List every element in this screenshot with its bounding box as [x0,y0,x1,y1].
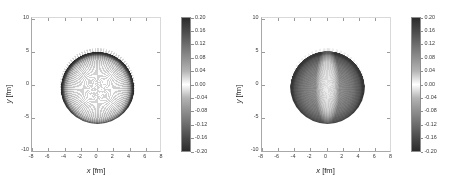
ytick-right-right-2 [387,85,390,86]
xticklabel-left-1: -6 [45,154,50,159]
ytick-right-2 [262,85,265,86]
cbar-tick-left-10 [191,152,194,153]
xtick-right-2 [294,148,295,151]
xaxis-title-left: x [fm] [31,166,161,175]
xtick-top-left-4 [97,18,98,21]
xaxis-title-symbol-left: x [87,166,91,175]
xtick-right-6 [359,148,360,151]
xaxis-unit-right: [fm] [322,166,335,175]
xticklabel-right-5: 2 [340,154,343,159]
xticklabel-right-4: 0 [324,154,327,159]
cbar-tick-left-3 [191,58,194,59]
yticklabel-right-1: -5 [254,114,259,119]
xtick-right-5 [343,148,344,151]
cbar-tick-left-0 [191,18,194,19]
yaxis-title-symbol-right: y [233,100,242,104]
xtick-top-right-6 [359,18,360,21]
xtick-top-right-7 [375,18,376,21]
cbar-label-right-9: -0.16 [425,135,437,140]
xticklabel-right-2: -4 [291,154,296,159]
cbar-label-right-0: 0.20 [425,15,436,20]
cbar-tick-left-4 [191,71,194,72]
xtick-top-right-5 [343,18,344,21]
cbar-label-left-9: -0.16 [195,135,207,140]
colorbar-right: 0.20 0.16 0.12 0.08 0.04 0.00 -0.04 -0.0… [411,17,455,152]
xtick-right-3 [310,148,311,151]
cbar-label-right-3: 0.08 [425,55,436,60]
cbar-tick-right-8 [421,125,424,126]
xticklabel-left-7: 6 [143,154,146,159]
ytick-right-1 [262,118,265,119]
xtick-top-left-3 [81,18,82,21]
heatmap-texture-right [290,48,365,124]
heatmap-rim-texture-left [60,48,135,124]
cbar-label-right-8: -0.12 [425,122,437,127]
xtick-top-right-1 [278,18,279,21]
xticklabel-left-8: 8 [160,154,163,159]
axes-right [261,17,391,152]
cbar-tick-right-4 [421,71,424,72]
cbar-tick-left-2 [191,44,194,45]
cbar-tick-right-0 [421,18,424,19]
cbar-label-right-2: 0.12 [425,42,436,47]
ytick-right-left-2 [157,85,160,86]
xtick-top-left-1 [48,18,49,21]
xtick-top-right-4 [327,18,328,21]
cbar-tick-right-7 [421,111,424,112]
axes-left [31,17,161,152]
panel-right: ϖxx [230,0,459,188]
ytick-left-4 [32,19,35,20]
cbar-tick-right-1 [421,31,424,32]
yticklabel-right-3: 5 [256,48,259,53]
xaxis-unit-left: [fm] [93,166,106,175]
ytick-right-0 [262,151,265,152]
xtick-top-left-7 [146,18,147,21]
xticklabel-left-2: -4 [61,154,66,159]
xticklabel-right-1: -6 [274,154,279,159]
panel-left: ϖLL [0,0,230,188]
colorbar-left: 0.20 0.16 0.12 0.08 0.04 0.00 -0.04 -0.0… [181,17,225,152]
cbar-label-right-6: -0.04 [425,95,437,100]
xtick-left-6 [130,148,131,151]
cbar-tick-left-7 [191,111,194,112]
cbar-tick-right-6 [421,98,424,99]
cbar-tick-left-5 [191,85,194,86]
xtick-right-4 [327,148,328,151]
xtick-left-3 [81,148,82,151]
cbar-tick-left-6 [191,98,194,99]
xtick-top-right-2 [294,18,295,21]
ytick-right-right-3 [387,52,390,53]
xtick-right-7 [375,148,376,151]
cbar-tick-right-5 [421,85,424,86]
cbar-tick-right-3 [421,58,424,59]
cbar-label-right-1: 0.16 [425,28,436,33]
cbar-label-left-7: -0.08 [195,109,207,114]
ytick-left-1 [32,118,35,119]
xticklabel-right-3: -2 [307,154,312,159]
yaxis-unit-left: [fm] [4,85,13,98]
cbar-tick-right-10 [421,152,424,153]
cbar-tick-right-2 [421,44,424,45]
xtick-top-left-5 [113,18,114,21]
cbar-label-left-5: 0.00 [195,82,206,87]
ytick-right-right-1 [387,118,390,119]
xticklabel-left-3: -2 [77,154,82,159]
ytick-right-4 [262,19,265,20]
yticklabel-left-2: 0 [26,81,29,86]
xtick-left-1 [48,148,49,151]
cbar-label-left-4: 0.04 [195,68,206,73]
yticklabel-right-2: 0 [256,81,259,86]
xaxis-title-symbol-right: x [316,166,320,175]
yaxis-title-left: y [fm] [4,64,13,124]
yaxis-title-right: y [fm] [233,64,242,124]
cbar-tick-left-1 [191,31,194,32]
yticklabel-right-0: -10 [251,147,259,152]
yticklabel-left-1: -5 [24,114,29,119]
xtick-top-left-6 [130,18,131,21]
xticklabel-left-6: 4 [127,154,130,159]
xtick-top-right-3 [310,18,311,21]
ytick-right-left-1 [157,118,160,119]
xtick-left-7 [146,148,147,151]
colorbar-gradient-right [411,17,421,152]
xtick-top-left-2 [65,18,66,21]
